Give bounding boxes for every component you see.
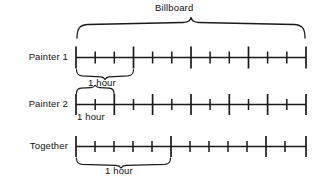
billboard-painting-rate-diagram: Billboard Painter 1 Painter 2 Together 1… (0, 0, 325, 181)
page-title: Billboard (155, 3, 193, 13)
painter-2-timeline (76, 85, 306, 115)
row-label-together: Together (0, 141, 68, 151)
row-label-painter-1: Painter 1 (0, 52, 68, 62)
billboard-brace (77, 18, 305, 39)
painter-1-timeline (76, 47, 306, 80)
caption-together-one-hour: 1 hour (105, 166, 133, 176)
row-label-painter-2: Painter 2 (0, 99, 68, 109)
together-timeline (76, 136, 306, 168)
diagram-canvas (0, 0, 325, 181)
caption-painter-1-one-hour: 1 hour (88, 78, 116, 88)
caption-painter-2-one-hour: 1 hour (77, 112, 105, 122)
billboard-brace-path (77, 18, 305, 39)
